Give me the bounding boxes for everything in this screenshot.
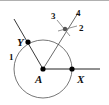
intersection-point <box>63 27 67 31</box>
bisector-ray <box>43 13 78 69</box>
point-a <box>40 66 45 71</box>
step-label-1: 1 <box>9 52 14 62</box>
step-label-3: 3 <box>51 11 56 21</box>
angle-bisector-diagram: A X Y 1 2 3 4 <box>0 0 109 105</box>
label-x: X <box>76 73 85 85</box>
step-label-2: 2 <box>79 23 84 33</box>
label-a: A <box>34 73 42 85</box>
label-y: Y <box>17 36 25 48</box>
point-x <box>69 66 74 71</box>
step-label-4: 4 <box>76 8 81 18</box>
point-y <box>25 39 30 44</box>
